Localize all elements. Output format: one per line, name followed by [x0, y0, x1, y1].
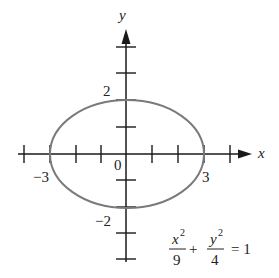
eq-term2-numerator: y: [208, 231, 217, 247]
eq-plus: +: [189, 241, 197, 257]
x-axis-label: x: [257, 145, 265, 161]
tick-label-x-pos-3: 3: [202, 169, 210, 185]
ellipse-diagram: y x 0 −3 3 2 −2 x 2 9 + y 2 4 = 1: [0, 0, 279, 278]
ellipse-equation: x 2 9 + y 2 4 = 1: [169, 227, 251, 268]
tick-label-y-pos-2: 2: [103, 83, 111, 99]
eq-term2-exponent: 2: [218, 227, 223, 238]
tick-label-y-neg-2: −2: [95, 213, 111, 229]
eq-term1-numerator: x: [171, 231, 179, 247]
tick-label-x-neg-3: −3: [33, 169, 49, 185]
y-axis-label: y: [117, 7, 126, 23]
eq-term1-exponent: 2: [180, 227, 185, 238]
eq-term1-denominator: 9: [173, 252, 181, 268]
eq-term2-denominator: 4: [211, 252, 219, 268]
x-axis-arrow-icon: [238, 150, 252, 159]
origin-label: 0: [114, 157, 122, 173]
y-axis-arrow-icon: [122, 29, 131, 44]
eq-equals-one: = 1: [231, 241, 251, 257]
